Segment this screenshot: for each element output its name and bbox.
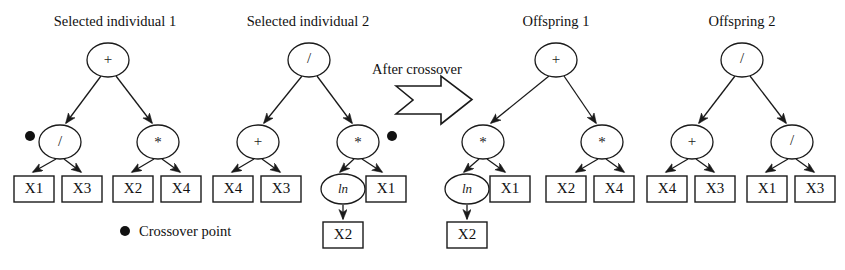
legend-label: Crossover point xyxy=(139,223,231,239)
edge-o2-root-right xyxy=(750,76,786,123)
edge-p2-right-rl xyxy=(340,159,354,172)
edge-p1-right-rl xyxy=(132,159,154,172)
node-o1-ln-label: ln xyxy=(462,181,472,196)
edge-o1-left-lr xyxy=(487,159,505,172)
node-p2-ln-label: ln xyxy=(338,181,348,196)
edge-o2-right-rl xyxy=(766,159,788,172)
node-p2-left-label: + xyxy=(254,133,262,149)
edge-o2-root-left xyxy=(699,76,735,123)
tree-title-parent2: Selected individual 2 xyxy=(247,13,369,29)
crossover-point-dot-parent2 xyxy=(387,131,397,141)
leaf-o1-rl-label: X2 xyxy=(557,180,575,196)
edge-o2-right-rr xyxy=(796,159,814,172)
edge-o1-right-rr xyxy=(606,159,624,172)
tree-title-offspring2: Offspring 2 xyxy=(709,13,776,29)
leaf-p1-rl-label: X2 xyxy=(124,180,142,196)
edge-p2-left-lr xyxy=(262,159,280,172)
edge-p2-root-right xyxy=(317,76,352,123)
leaf-p2-rll-label: X2 xyxy=(334,226,352,242)
leaf-o2-rr-label: X3 xyxy=(806,180,824,196)
tree-offspring1: + * * ln X1 X2 X4 X2 xyxy=(445,43,634,248)
after-crossover-group: After crossover xyxy=(372,61,472,124)
tree-parent1: + / * X1 X3 X2 X4 xyxy=(14,43,201,202)
leaf-p2-rr-label: X1 xyxy=(377,180,395,196)
crossover-diagram: Selected individual 1 Selected individua… xyxy=(0,0,845,270)
diagram-canvas: Selected individual 1 Selected individua… xyxy=(0,0,845,270)
node-o1-root-label: + xyxy=(552,51,560,67)
edge-p1-left-lr xyxy=(64,159,81,172)
after-crossover-caption: After crossover xyxy=(372,61,462,77)
edge-p1-root-left xyxy=(66,76,101,123)
leaf-o1-lr-label: X1 xyxy=(501,180,519,196)
leaf-p2-ll-label: X4 xyxy=(224,180,243,196)
edge-p1-right-rr xyxy=(162,159,180,172)
crossover-point-dot-parent1 xyxy=(25,131,35,141)
node-p1-right-label: * xyxy=(154,134,162,150)
tree-offspring2: / + / X4 X3 X1 X3 xyxy=(647,43,835,202)
leaf-p2-lr-label: X3 xyxy=(272,180,290,196)
edge-o1-root-left xyxy=(491,76,549,123)
edge-p2-root-left xyxy=(264,76,302,123)
edge-o2-left-ll xyxy=(666,159,688,172)
tree-title-parent1: Selected individual 1 xyxy=(54,13,176,29)
edge-o1-root-right xyxy=(564,76,596,123)
edge-p1-left-ll xyxy=(33,159,56,172)
leaf-p1-ll-label: X1 xyxy=(25,180,43,196)
legend-crossover-dot-icon xyxy=(120,226,130,236)
leaf-o1-lll-label: X2 xyxy=(458,226,476,242)
node-p2-right-label: * xyxy=(354,134,362,150)
after-crossover-arrow-icon xyxy=(396,76,472,124)
leaf-p1-lr-label: X3 xyxy=(73,180,91,196)
node-o1-left-label: * xyxy=(479,134,487,150)
leaf-o2-rl-label: X1 xyxy=(758,180,776,196)
edge-p2-right-rr xyxy=(362,159,382,172)
node-p1-root-label: + xyxy=(104,51,112,67)
legend: Crossover point xyxy=(120,223,231,239)
leaf-p1-rr-label: X4 xyxy=(172,180,191,196)
node-o2-left-label: + xyxy=(688,133,696,149)
edge-p2-left-ll xyxy=(232,159,254,172)
tree-title-offspring1: Offspring 1 xyxy=(523,13,590,29)
edge-o1-left-ll xyxy=(464,159,479,172)
node-o1-right-label: * xyxy=(598,134,606,150)
edge-o2-left-lr xyxy=(696,159,714,172)
edge-p1-root-right xyxy=(116,76,152,123)
leaf-o2-lr-label: X3 xyxy=(706,180,724,196)
leaf-o2-ll-label: X4 xyxy=(658,180,677,196)
edge-o1-right-rl xyxy=(576,159,598,172)
leaf-o1-rr-label: X4 xyxy=(605,180,624,196)
